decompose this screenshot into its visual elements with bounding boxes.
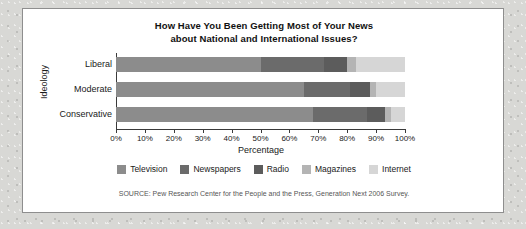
chart-title: How Have You Been Getting Most of Your N… [23,20,505,45]
legend-swatch-magazines [302,165,311,174]
legend-item-internet: Internet [369,164,411,174]
x-axis-ticks: 0%10%20%30%40%50%60%70%80%90%100% [116,130,406,144]
chart-card: How Have You Been Getting Most of Your N… [22,8,504,213]
x-tick-mark-90 [376,130,377,133]
x-tick-label-100: 100% [388,134,422,143]
bar-conservative [116,107,405,122]
chart-title-line-2: about National and International Issues? [23,33,505,46]
x-tick-mark-100 [405,130,406,133]
segment-television [116,107,313,122]
segment-internet [356,57,405,72]
x-tick-mark-70 [318,130,319,133]
plot-area [116,53,405,129]
legend-label-internet: Internet [382,164,411,174]
legend-swatch-television [117,165,126,174]
legend-swatch-newspapers [180,165,189,174]
segment-newspapers [304,82,350,97]
segment-radio [350,82,370,97]
chart-title-line-1: How Have You Been Getting Most of Your N… [23,20,505,33]
x-tick-mark-30 [203,130,204,133]
legend-item-television: Television [117,164,167,174]
legend-item-newspapers: Newspapers [180,164,240,174]
legend-label-radio: Radio [267,164,289,174]
segment-radio [367,107,384,122]
legend-swatch-internet [369,165,378,174]
x-tick-mark-20 [174,130,175,133]
chart-legend: TelevisionNewspapersRadioMagazinesIntern… [23,164,505,174]
x-axis-title: Percentage [116,145,406,155]
legend-item-radio: Radio [254,164,289,174]
x-tick-mark-0 [116,130,117,133]
segment-magazines [347,57,356,72]
legend-label-television: Television [130,164,167,174]
y-axis-label-moderate: Moderate [42,82,112,97]
segment-internet [391,107,405,122]
y-axis-label-conservative: Conservative [42,107,112,122]
legend-label-magazines: Magazines [315,164,356,174]
x-tick-mark-80 [347,130,348,133]
segment-television [116,57,261,72]
segment-newspapers [261,57,325,72]
x-tick-mark-40 [232,130,233,133]
y-axis-label-liberal: Liberal [42,57,112,72]
source-note: SOURCE: Pew Research Center for the Peop… [23,190,505,197]
x-tick-mark-60 [289,130,290,133]
x-tick-mark-50 [261,130,262,133]
legend-label-newspapers: Newspapers [193,164,240,174]
segment-television [116,82,304,97]
segment-newspapers [313,107,368,122]
segment-internet [376,82,405,97]
x-tick-mark-10 [145,130,146,133]
bar-moderate [116,82,405,97]
legend-swatch-radio [254,165,263,174]
y-axis-tick-labels: LiberalModerateConservative [39,53,112,129]
segment-radio [324,57,347,72]
bar-liberal [116,57,405,72]
legend-item-magazines: Magazines [302,164,356,174]
